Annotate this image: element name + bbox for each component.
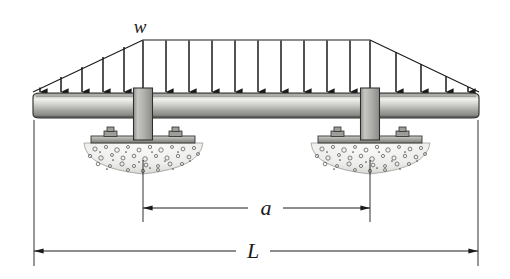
dimension-L-label: L xyxy=(246,238,259,263)
figure-root: w xyxy=(0,0,510,279)
beam-load-diagram: w xyxy=(0,0,510,279)
horizontal-beam xyxy=(33,93,479,118)
right-column xyxy=(361,88,380,140)
load-label-w: w xyxy=(134,16,147,37)
dimension-a-label: a xyxy=(261,195,272,220)
left-column xyxy=(134,88,153,140)
